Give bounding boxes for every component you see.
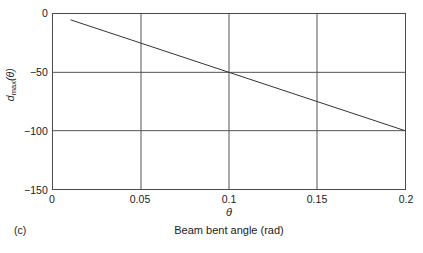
x-tick-015: 0.15 — [287, 194, 347, 205]
y-axis-title: dmax(θ) — [4, 45, 19, 125]
gridlines — [53, 14, 405, 189]
y-axis-title-base: d — [4, 95, 16, 101]
y-axis-title-subscript: max — [9, 81, 18, 95]
x-tick-0: 0 — [22, 194, 82, 205]
y-axis-title-argument: (θ) — [4, 68, 16, 81]
figure-panel-c: 0 −50 −100 −150 dmax(θ) 0 0.05 0.1 0.15 … — [0, 0, 423, 253]
x-tick-005: 0.05 — [110, 194, 170, 205]
data-series-group — [71, 20, 405, 131]
figure-caption: Beam bent angle (rad) — [52, 224, 406, 236]
x-axis-title: θ — [52, 206, 406, 218]
data-line-0 — [71, 20, 405, 131]
x-tick-01: 0.1 — [199, 194, 259, 205]
y-axis-tick-labels: 0 −50 −100 −150 — [0, 0, 48, 253]
y-tick-m100: −100 — [4, 126, 48, 137]
plot-canvas — [53, 14, 405, 189]
x-tick-02: 0.2 — [376, 194, 423, 205]
y-tick-0: 0 — [4, 8, 48, 19]
plot-area — [52, 13, 406, 190]
panel-label: (c) — [14, 224, 26, 236]
